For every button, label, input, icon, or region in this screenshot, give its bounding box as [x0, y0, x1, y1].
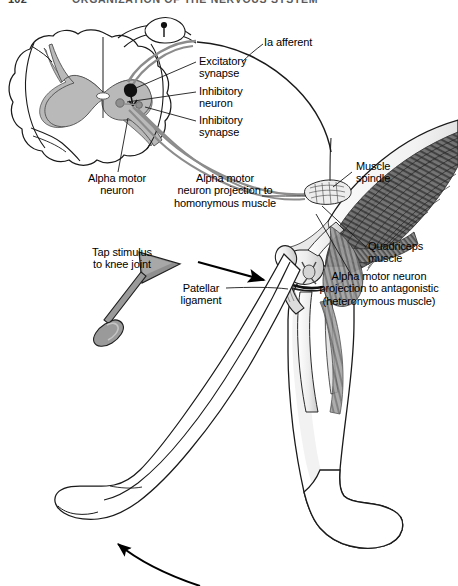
label-quadriceps-muscle: Quadriceps muscle	[368, 240, 423, 265]
sensory-neuron-cell-body	[161, 22, 167, 28]
label-heteronymous-projection: Alpha motor neuron projection to antagon…	[300, 270, 458, 307]
dorsal-root-ganglion	[145, 18, 185, 43]
inhibitory-synapse-bouton	[136, 102, 143, 109]
label-homonymous-projection: Alpha motor neuron projection to homonym…	[150, 172, 300, 209]
leg-kick-motion-arrow	[118, 544, 200, 586]
label-muscle-spindle: Muscle spindle	[356, 160, 390, 185]
label-inhibitory-neuron: Inhibitory neuron	[199, 85, 243, 110]
label-ia-afferent: Ia afferent	[264, 36, 312, 48]
label-patellar-ligament: Patellar ligament	[170, 282, 232, 307]
tap-stimulus-arrow	[198, 262, 264, 280]
label-inhibitory-synapse: Inhibitory synapse	[199, 114, 243, 139]
central-canal	[97, 93, 110, 99]
muscle-spindle-organ	[305, 138, 352, 204]
label-tap-stimulus: Tap stimulus to knee joint	[66, 246, 178, 271]
label-excitatory-synapse: Excitatory synapse	[199, 55, 246, 80]
hammer-shaft	[104, 272, 146, 324]
standing-foot-outline	[304, 470, 403, 548]
inhibitory-neuron-cell-body	[116, 99, 124, 107]
excitatory-synapse-bouton	[124, 84, 137, 98]
